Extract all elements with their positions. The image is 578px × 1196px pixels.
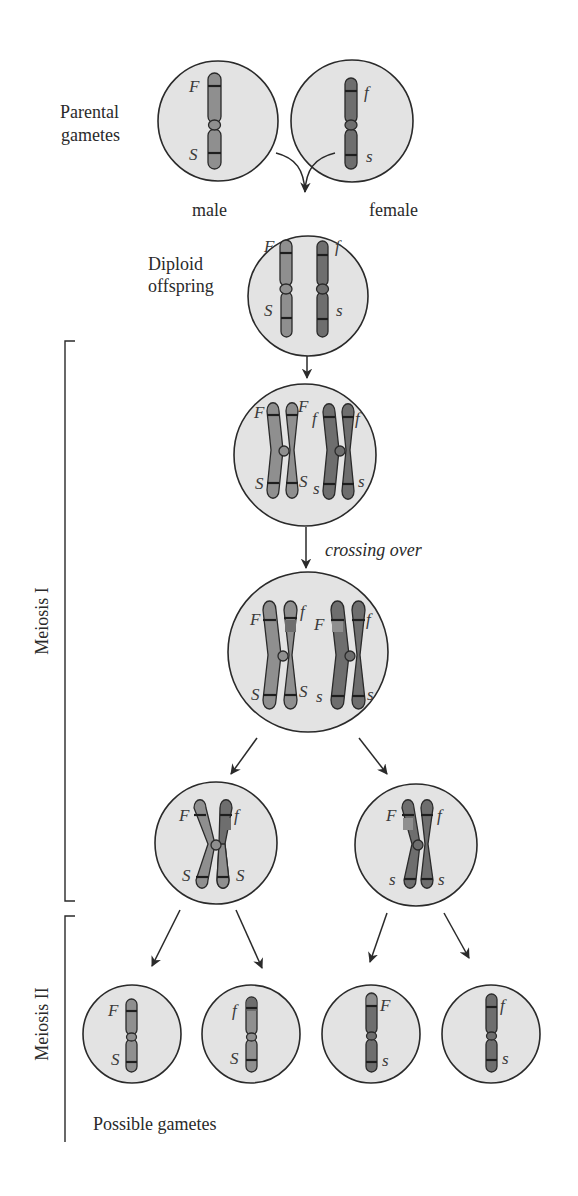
meiosis-1-label: Meiosis I bbox=[32, 587, 52, 655]
allele-label: s bbox=[367, 685, 374, 704]
allele-label: Diploid bbox=[148, 254, 203, 274]
allele-label: F bbox=[379, 996, 391, 1015]
crossing-over-label: crossing over bbox=[325, 540, 423, 560]
meiosis-2-label: Meiosis II bbox=[32, 987, 52, 1061]
meiosis-2-bracket: Meiosis II bbox=[32, 916, 75, 1142]
chromosome-paternal bbox=[280, 240, 292, 337]
possible-gametes-label: Possible gametes bbox=[93, 1114, 217, 1134]
allele-label: offspring bbox=[148, 276, 214, 296]
meiosis1-product-left-cell: F f S S bbox=[155, 782, 277, 904]
allele-label: S bbox=[236, 866, 245, 885]
female-label: female bbox=[369, 200, 418, 220]
chromosome-maternal bbox=[317, 241, 329, 337]
arrow-to-gamete-1 bbox=[152, 910, 180, 966]
allele-label: S bbox=[264, 301, 273, 320]
allele-label: Parental bbox=[60, 102, 119, 122]
arrow-down-right bbox=[359, 738, 387, 774]
male-gamete-cell: F S bbox=[158, 61, 278, 181]
allele-label: S bbox=[182, 866, 191, 885]
replicated-homologs-cell: F F f f S S s s bbox=[234, 384, 376, 526]
allele-label: S bbox=[230, 1049, 239, 1068]
allele-label: s bbox=[336, 301, 343, 320]
allele-label: s bbox=[438, 870, 445, 889]
gamete-4-cell: f s bbox=[442, 985, 540, 1083]
allele-label: S bbox=[111, 1050, 120, 1069]
allele-label: s bbox=[502, 1049, 509, 1068]
chromosome-paternal bbox=[208, 73, 221, 169]
female-gamete-cell: f s bbox=[291, 60, 413, 182]
allele-label: F bbox=[385, 806, 397, 825]
allele-label: F bbox=[178, 806, 190, 825]
crossing-over-cell: F f F f S S s s bbox=[228, 572, 388, 732]
allele-label: s bbox=[389, 870, 396, 889]
allele-label: S bbox=[251, 685, 260, 704]
diploid-offspring-cell: F f S s bbox=[248, 236, 368, 356]
arrow-to-gamete-3 bbox=[370, 913, 387, 962]
meiosis-crossing-over-diagram: Parental gametes F S f s male fe bbox=[0, 0, 578, 1196]
allele-label: s bbox=[313, 479, 320, 498]
allele-label: S bbox=[299, 472, 308, 491]
arrow-to-gamete-4 bbox=[444, 913, 469, 958]
diploid-offspring-label: Diploid offspring bbox=[148, 254, 214, 296]
arrow-down-left bbox=[231, 738, 257, 774]
gamete-1-cell: F S bbox=[83, 985, 181, 1083]
male-label: male bbox=[192, 200, 227, 220]
allele-label: F bbox=[253, 403, 265, 422]
allele-label: S bbox=[299, 682, 308, 701]
allele-label: F bbox=[249, 610, 261, 629]
chromosome-maternal bbox=[345, 78, 357, 169]
gamete-2-cell: f S bbox=[202, 985, 300, 1083]
allele-label: F bbox=[263, 237, 275, 256]
allele-F: F bbox=[188, 77, 200, 96]
allele-s: s bbox=[366, 147, 373, 166]
allele-S: S bbox=[189, 145, 198, 164]
allele-label: S bbox=[255, 474, 264, 493]
gamete-3-cell: F s bbox=[322, 985, 420, 1083]
parental-gametes-label: Parental gametes bbox=[60, 102, 120, 145]
meiosis-1-bracket: Meiosis I bbox=[32, 341, 75, 901]
allele-label: s bbox=[382, 1051, 389, 1070]
meiosis1-product-right-cell: F f s s bbox=[355, 784, 477, 906]
allele-label: F bbox=[297, 397, 309, 416]
allele-label: s bbox=[358, 472, 365, 491]
allele-label: s bbox=[316, 687, 323, 706]
arrow-to-gamete-2 bbox=[236, 910, 262, 968]
allele-label: gametes bbox=[61, 125, 120, 145]
allele-label: F bbox=[107, 1001, 119, 1020]
allele-label: F bbox=[313, 615, 325, 634]
